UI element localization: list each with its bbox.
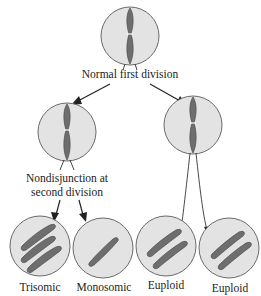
arrow-to-monosomic [79, 200, 87, 222]
daughter-cell-euploid-2 [199, 218, 259, 278]
label-euploid-2: Euploid [212, 282, 249, 295]
daughter-cell-trisomic [10, 216, 70, 276]
parent-cell [101, 7, 159, 70]
daughter-cell-monosomic [73, 218, 133, 278]
nondisjunction-label-line2: second division [31, 186, 103, 198]
arrow-left-first [71, 84, 110, 105]
secondary-cell-right [164, 96, 222, 230]
label-trisomic: Trisomic [19, 281, 60, 293]
nondisjunction-label-line1: Nondisjunction at [26, 172, 109, 185]
label-euploid-1: Euploid [148, 279, 185, 292]
nondisjunction-diagram: Normal first division Nondisjunction at … [0, 0, 261, 296]
label-monosomic: Monosomic [77, 281, 132, 293]
daughter-cell-euploid-1 [136, 216, 196, 276]
first-division-label: Normal first division [82, 68, 179, 80]
secondary-cell-left [38, 103, 96, 170]
